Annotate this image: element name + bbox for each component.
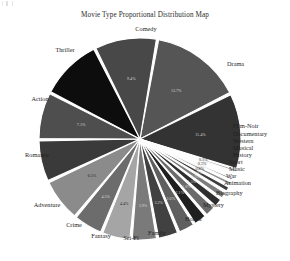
- category-label-thriller: Thriller: [55, 46, 75, 53]
- category-label-film-noir: Film-Noir: [233, 122, 259, 129]
- category-label-documentary: Documentary: [233, 130, 268, 137]
- slice-percent-label: 11.4%: [195, 132, 206, 137]
- category-label-adventure: Adventure: [34, 201, 61, 208]
- slice-percent-label: 9.4%: [127, 76, 136, 81]
- slice-percent-label: 4.4%: [120, 201, 129, 206]
- category-label-war: War: [226, 172, 237, 179]
- slice-percent-label: 7.1%: [77, 122, 86, 127]
- category-label-animation: Animation: [224, 179, 252, 186]
- category-label-biography: Biography: [216, 189, 243, 196]
- slice-percent-label: 3.2%: [154, 200, 163, 205]
- pie-chart-figure: Movie Type Proportional Distribution Map…: [0, 0, 290, 261]
- category-label-music: Music: [229, 165, 245, 172]
- slice-percent-label: 1.8%: [182, 184, 191, 189]
- slice-percent-label: 2.1%: [176, 190, 185, 195]
- category-label-horror: Horror: [185, 215, 203, 222]
- slice-percent-label: 4.5%: [101, 194, 110, 199]
- category-label-comedy: Comedy: [135, 25, 157, 32]
- category-label-drama: Drama: [227, 60, 244, 67]
- category-label-romance: Romance: [25, 151, 49, 158]
- category-label-action: Action: [31, 95, 49, 102]
- slice-percent-label: 2.6%: [167, 196, 176, 201]
- category-label-history: History: [233, 151, 253, 158]
- slice-percent-label: 6.5%: [88, 173, 97, 178]
- pie-slices: [39, 38, 241, 240]
- category-label-sci-fi: Sci-Fi: [123, 234, 139, 241]
- category-label-musical: Musical: [233, 144, 254, 151]
- category-label-crime: Crime: [66, 221, 82, 228]
- slice-percent-label: 1.5%: [187, 179, 196, 184]
- pie-svg: 13.7%11.4%0.3%0.4%0.5%0.6%0.8%1.0%1.2%1.…: [0, 0, 290, 261]
- category-label-fantasy: Fantasy: [91, 232, 111, 239]
- category-label-western: Western: [233, 137, 254, 144]
- category-label-mystery: Mystery: [203, 201, 225, 208]
- slice-percent-label: 13.7%: [171, 88, 182, 93]
- slice-percent-label: 3.9%: [139, 203, 148, 208]
- category-label-family: Family: [148, 229, 167, 236]
- category-label-sport: Sport: [229, 158, 243, 165]
